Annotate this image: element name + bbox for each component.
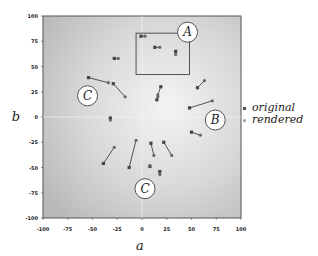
rendered-point [170,154,173,157]
y-tick-label: 25 [31,89,38,95]
original-point [87,76,90,79]
rendered-point [158,46,161,49]
region-label: A [182,25,192,39]
original-marker-icon [243,107,246,110]
y-tick-label: -25 [29,139,39,145]
rendered-point [148,164,151,167]
x-axis-label: a [136,238,144,253]
original-point [112,82,115,85]
original-point [153,46,156,49]
original-point [113,57,116,60]
y-axis-ticks: 1007550250-25-50-75-100 [25,13,43,221]
rendered-marker-icon [243,119,246,122]
original-point [159,85,162,88]
y-tick-label: 100 [28,13,39,19]
y-tick-label: -100 [25,215,38,221]
x-tick-label: -100 [37,226,50,232]
x-tick-label: -25 [113,226,123,232]
rendered-point [124,95,127,98]
y-tick-label: -50 [29,165,39,171]
region-label: C [140,182,149,196]
x-tick-label: 50 [188,226,195,232]
data-pair [148,164,151,168]
rendered-point [158,173,161,176]
original-point [155,98,158,101]
y-axis-label: b [12,109,20,124]
original-point [188,106,191,109]
region-label: C [83,89,92,103]
rendered-point [203,79,206,82]
scatter-chart: 1007550250-25-50-75-100 -100-75-50-25025… [0,0,318,256]
original-point [128,166,131,169]
y-tick-label: 50 [31,64,38,70]
rendered-point [152,154,155,157]
rendered-point [174,53,177,56]
x-tick-label: -75 [63,226,73,232]
data-pair [174,50,177,56]
original-point [162,141,165,144]
original-point [149,142,152,145]
original-point [102,162,105,165]
x-tick-label: 25 [163,226,170,232]
x-tick-label: 100 [236,226,247,232]
legend: original rendered [243,102,303,126]
original-point [139,35,142,38]
original-point [196,86,199,89]
y-tick-label: 75 [31,38,38,44]
legend-label-rendered: rendered [252,114,303,126]
original-point [158,170,161,173]
rendered-point [117,57,120,60]
rendered-point [109,118,112,121]
x-tick-label: 0 [140,226,144,232]
original-point [174,50,177,53]
x-axis-ticks: -100-75-50-250255075100 [37,218,247,232]
rendered-point [134,139,137,142]
data-pair [158,170,161,176]
rendered-point [211,99,214,102]
rendered-point [199,134,202,137]
x-tick-label: 75 [213,226,220,232]
data-pair [109,116,112,121]
rendered-point [156,95,159,98]
region-label: B [210,113,220,127]
x-tick-label: -50 [88,226,98,232]
y-tick-label: 0 [35,114,39,120]
rendered-point [113,146,116,149]
rendered-point [107,81,110,84]
y-tick-label: -75 [29,190,39,196]
legend-item-rendered: rendered [243,114,303,126]
rendered-point [143,35,146,38]
original-point [190,131,193,134]
